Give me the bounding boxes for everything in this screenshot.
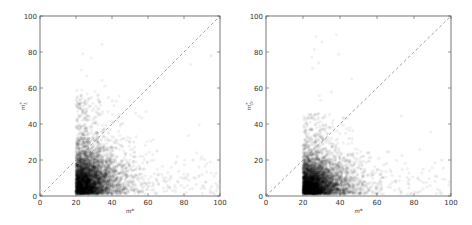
y-tick-label: 100 [250, 13, 263, 21]
y-tick-label: 0 [33, 193, 37, 201]
x-tick-label: 0 [38, 199, 42, 207]
y-tick-label: 60 [254, 85, 263, 93]
x-axis-label: m* [126, 207, 135, 214]
x-tick-label: 100 [444, 199, 457, 207]
y-tick-label: 0 [259, 193, 263, 201]
y-tick-label: 20 [254, 157, 263, 165]
x-axis-label: m* [354, 207, 363, 214]
x-tick-label: 20 [72, 199, 81, 207]
scatter-panel-right: 020406080100020406080100m*m*D [245, 13, 458, 215]
y-tick-label: 60 [28, 85, 37, 93]
y-tick-label: 40 [254, 121, 263, 129]
x-tick-label: 0 [264, 199, 268, 207]
scatter-panel-left: 020406080100020406080100m*m*L [19, 13, 227, 215]
y-tick-label: 80 [28, 49, 37, 57]
figure: 020406080100020406080100m*m*L 0204060801… [0, 0, 472, 225]
y-tick-label: 40 [28, 121, 37, 129]
y-tick-label: 100 [24, 13, 37, 21]
x-tick-label: 100 [213, 199, 226, 207]
x-tick-label: 40 [108, 199, 117, 207]
x-tick-label: 60 [373, 199, 382, 207]
x-tick-label: 80 [410, 199, 419, 207]
y-axis-label: m*L [19, 102, 29, 111]
x-tick-label: 80 [180, 199, 189, 207]
y-axis-label: m*D [245, 101, 255, 110]
x-tick-label: 60 [144, 199, 153, 207]
x-tick-label: 20 [299, 199, 308, 207]
x-tick-label: 40 [336, 199, 345, 207]
scatter-points [74, 43, 221, 196]
scatter-points [301, 33, 451, 196]
y-tick-label: 80 [254, 49, 263, 57]
y-tick-label: 20 [28, 157, 37, 165]
